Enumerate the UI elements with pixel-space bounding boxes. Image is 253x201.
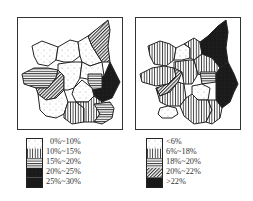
legend-swatches — [26, 138, 43, 188]
region — [200, 72, 216, 84]
map-right — [135, 17, 241, 130]
legend-label: 20%~22% — [166, 167, 201, 177]
legend-swatch-solid-black — [147, 177, 162, 187]
region — [148, 41, 176, 66]
legend-label: 25%~30% — [46, 177, 81, 187]
region — [56, 40, 80, 62]
legend-label: 18%~20% — [166, 157, 201, 167]
map-left — [17, 17, 123, 130]
legend-label: 15%~20% — [46, 157, 81, 167]
legend-label: 0%~10% — [46, 137, 81, 147]
legend-swatch-diagonal-lines — [147, 168, 162, 178]
legend-swatch-horizontal-lines — [27, 158, 42, 168]
legend-swatch-horizontal-lines — [147, 158, 162, 168]
legend-swatch-dotted — [147, 139, 162, 149]
legend-swatch-solid-black — [27, 177, 42, 187]
legend-swatch-diagonal-lines — [27, 168, 42, 178]
legend-swatch-dotted — [27, 139, 42, 149]
region — [32, 41, 58, 66]
region — [216, 62, 238, 108]
region — [158, 106, 178, 118]
legend-label: 10%~15% — [46, 147, 81, 157]
legend-label: 20%~25% — [46, 167, 81, 177]
legend-label: >22% — [166, 177, 201, 187]
legend-swatch-vertical-lines — [147, 149, 162, 159]
legend-label: <6% — [166, 137, 201, 147]
map-right-regions — [136, 18, 240, 129]
legend-swatches — [146, 138, 163, 188]
legend-swatch-vertical-lines — [27, 149, 42, 159]
legend-label: 6%~18% — [166, 147, 201, 157]
map-left-regions — [18, 18, 122, 129]
